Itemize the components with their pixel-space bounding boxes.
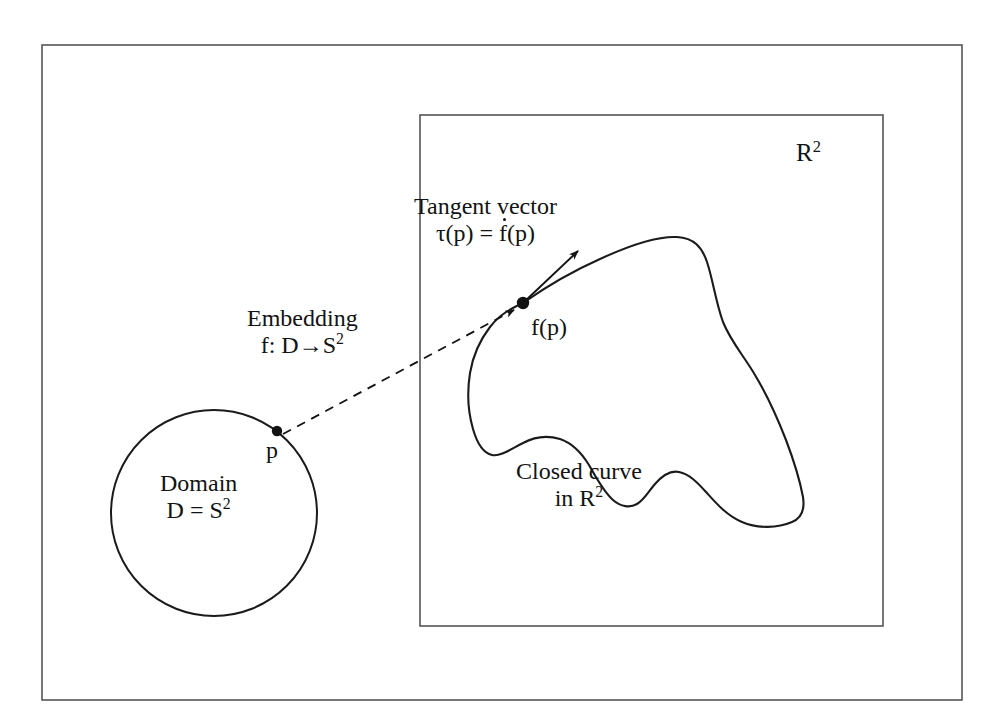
domain-point-dot xyxy=(272,426,282,436)
label-embedding-title: Embedding xyxy=(247,305,358,332)
tangent-formula-suffix: (p) xyxy=(507,220,535,246)
label-embedding: Embedding f: D→S2 xyxy=(247,305,358,359)
tangent-formula-prefix: τ(p) = xyxy=(436,220,499,246)
label-tangent-vector-formula: τ(p) = f(p) xyxy=(414,220,557,247)
label-r2-base: R xyxy=(796,139,813,166)
label-tangent-vector: Tangent vector τ(p) = f(p) xyxy=(414,193,557,247)
domain-formula-superscript: 2 xyxy=(223,495,231,512)
figure-canvas: R2 Tangent vector τ(p) = f(p) f(p) Embed… xyxy=(0,0,1006,727)
label-closed-curve-line2: in R2 xyxy=(516,485,642,512)
label-domain-formula: D = S2 xyxy=(160,497,237,524)
image-point-dot xyxy=(517,297,529,309)
domain-formula-prefix: D = S xyxy=(167,497,223,523)
label-image-point: f(p) xyxy=(531,314,567,341)
label-closed-curve: Closed curve in R2 xyxy=(516,458,642,512)
label-closed-curve-line1: Closed curve xyxy=(516,458,642,485)
tangent-vector-arrow xyxy=(523,251,578,303)
label-r2-space: R2 xyxy=(796,139,821,167)
inner-frame-r2 xyxy=(420,115,883,626)
label-r2-superscript: 2 xyxy=(813,137,821,156)
label-embedding-formula: f: D→S2 xyxy=(247,332,358,359)
closed-curve-line2-superscript: 2 xyxy=(595,483,603,500)
outer-frame xyxy=(42,45,962,700)
embedding-formula-prefix: f: D→S xyxy=(261,332,336,358)
label-tangent-vector-title: Tangent vector xyxy=(414,193,557,220)
label-domain-title: Domain xyxy=(160,470,237,497)
embedding-formula-superscript: 2 xyxy=(336,330,344,347)
label-domain: Domain D = S2 xyxy=(160,470,237,524)
closed-curve-line2-prefix: in R xyxy=(555,485,596,511)
label-domain-point: p xyxy=(266,437,278,464)
diagram-svg xyxy=(0,0,1006,727)
tangent-formula-f-dot: f xyxy=(499,220,507,247)
